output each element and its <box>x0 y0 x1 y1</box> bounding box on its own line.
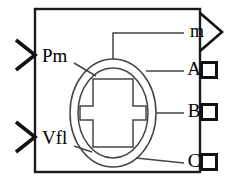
synchronous-machine-block-diagram: Pm Vfl m A B C <box>0 0 229 184</box>
output-port-a[interactable] <box>202 63 217 78</box>
square-outline-icon <box>202 105 217 120</box>
input-label-pm: Pm <box>42 45 68 66</box>
output-label-m: m <box>190 21 204 41</box>
chevron-icon <box>16 122 35 152</box>
input-port-pm[interactable] <box>16 40 35 70</box>
square-outline-icon <box>202 63 217 78</box>
output-label-c: C <box>188 150 201 171</box>
input-label-vfl: Vfl <box>42 127 67 148</box>
output-port-b[interactable] <box>202 105 217 120</box>
chevron-icon <box>16 40 35 70</box>
square-outline-icon <box>202 155 217 170</box>
input-port-vfl[interactable] <box>16 122 35 152</box>
rotor-i-beam <box>80 79 146 147</box>
machine-outer-ellipse <box>70 59 156 167</box>
connection-line-m <box>113 33 184 60</box>
output-label-a: A <box>187 58 201 79</box>
output-label-b: B <box>188 100 201 121</box>
output-port-c[interactable] <box>202 155 217 170</box>
connection-line-c <box>136 158 184 163</box>
block-diagram-canvas: Pm Vfl m A B C <box>0 0 229 184</box>
